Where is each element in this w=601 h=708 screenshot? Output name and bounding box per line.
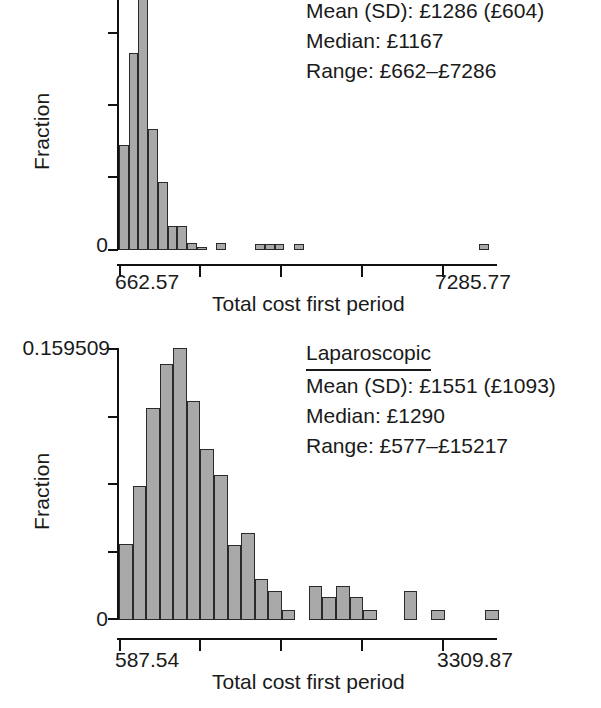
histogram-bar [275,244,285,250]
histogram-bar [485,610,499,620]
y-axis-label-laparoscopic: Fraction [30,453,54,530]
annotation-median-laparoscopic: Median: £1290 [306,401,556,431]
y-tick-value-zero-open: 0 [76,233,108,257]
histogram-bar [265,244,275,250]
x-tick-open-2 [280,266,282,277]
annotation-range-open: Range: £662–£7286 [306,56,544,86]
histogram-bar [363,610,377,620]
annotation-median-open: Median: £1167 [306,26,544,56]
histogram-bar [119,145,129,250]
annotation-mean-laparoscopic: Mean (SD): £1551 (£1093) [306,371,556,401]
x-tick-value-left-open: 662.57 [115,270,179,294]
x-tick-lap-2 [280,640,282,651]
histogram-bar [177,226,187,250]
x-tick-lap-3 [361,640,363,651]
histogram-bar [322,597,336,620]
annotation-title-laparoscopic: Laparoscopic [306,338,431,371]
x-axis-title-open: Total cost first period [212,292,405,316]
y-tick-value-zero-laparoscopic: 0 [76,607,108,631]
chart-panel-open: Fraction 0 662.57 7285.77 Total cost fir… [0,0,601,330]
histogram-bar [168,226,178,250]
x-tick-value-right-laparoscopic: 3309.87 [437,648,513,672]
histogram-bar [255,579,269,620]
histogram-bar [216,243,226,250]
histogram-bar [268,591,282,620]
histogram-bar [255,244,265,250]
histogram-bar [119,544,133,620]
histogram-bar [228,545,242,620]
x-tick-open-1 [199,266,201,277]
histogram-bar [138,0,148,250]
histogram-bar [197,247,207,250]
histogram-bar [282,610,296,620]
histogram-bar [309,586,323,620]
histogram-bar [146,408,160,620]
histogram-bar [404,591,418,620]
x-axis-line-laparoscopic [117,638,497,640]
annotation-open: Mean (SD): £1286 (£604) Median: £1167 Ra… [306,0,544,86]
chart-panel-laparoscopic: Fraction 0.159509 0 587.54 3309.87 Total… [0,330,601,708]
histogram-bar [200,449,214,620]
histogram-bar [431,610,445,620]
histogram-bar [479,244,489,250]
histogram-bar [187,401,201,620]
x-tick-lap-1 [199,640,201,651]
x-tick-value-right-open: 7285.77 [435,270,511,294]
histogram-bar [173,348,187,620]
histogram-bar [129,53,139,250]
y-tick-value-top-laparoscopic: 0.159509 [5,336,110,360]
x-tick-open-3 [361,266,363,277]
x-axis-line-open [117,264,497,266]
histogram-bar [350,597,364,620]
histogram-bar [187,243,197,250]
x-tick-value-left-laparoscopic: 587.54 [115,648,179,672]
histogram-bar [133,486,147,620]
x-axis-title-laparoscopic: Total cost first period [212,670,405,694]
histogram-bar [160,364,174,620]
annotation-mean-open: Mean (SD): £1286 (£604) [306,0,544,26]
histogram-bar [294,244,304,250]
annotation-laparoscopic: Laparoscopic Mean (SD): £1551 (£1093) Me… [306,338,556,461]
y-axis-label-open: Fraction [30,93,54,170]
histogram-bar [158,182,168,250]
histogram-bar [241,533,255,620]
histogram-bar [148,129,158,250]
histogram-bar [214,475,228,620]
histogram-bar [336,586,350,620]
annotation-range-laparoscopic: Range: £577–£15217 [306,431,556,461]
